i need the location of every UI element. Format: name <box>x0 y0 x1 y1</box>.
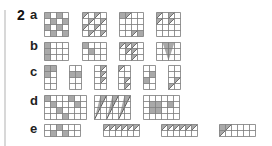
fraction-grid-d <box>143 95 180 120</box>
part-label-b: b <box>30 38 38 53</box>
fraction-grid-e <box>219 124 256 137</box>
fraction-grid-a <box>119 12 144 37</box>
margin-rule <box>4 10 6 146</box>
fraction-grid-c <box>118 65 131 90</box>
fraction-grid-c <box>168 65 181 90</box>
fraction-grid-d <box>94 95 131 120</box>
fraction-grid-a <box>44 12 69 37</box>
part-label-a: a <box>30 7 37 22</box>
part-label-d: d <box>30 93 38 108</box>
fraction-grid-c <box>44 65 57 90</box>
part-label-e: e <box>30 121 37 136</box>
fraction-grid-a <box>82 12 107 37</box>
fraction-grid-c <box>143 65 156 90</box>
exercise-number: 2 <box>17 7 25 23</box>
fraction-grid-b <box>156 42 181 61</box>
fraction-grid-c <box>69 65 82 90</box>
fraction-grid-e <box>161 124 198 137</box>
fraction-grid-a <box>156 12 181 37</box>
fraction-grid-d <box>44 95 87 120</box>
part-label-c: c <box>30 64 37 79</box>
fraction-grid-e <box>44 124 81 137</box>
fraction-grid-c <box>94 65 107 90</box>
fraction-grid-b <box>82 42 107 61</box>
fraction-grid-e <box>103 124 140 137</box>
fraction-grid-b <box>44 42 69 61</box>
fraction-grid-b <box>119 42 144 61</box>
